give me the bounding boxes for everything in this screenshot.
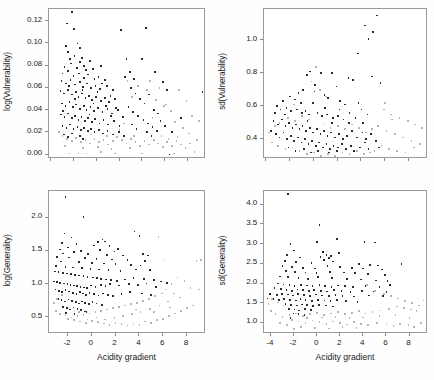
data-point xyxy=(135,141,137,143)
data-point xyxy=(318,142,320,144)
data-point xyxy=(65,45,67,47)
x-tick-label: 6 xyxy=(370,338,400,347)
data-point xyxy=(322,147,324,149)
data-point xyxy=(76,293,78,295)
data-point xyxy=(407,120,409,122)
data-point xyxy=(348,77,350,79)
data-point xyxy=(169,154,171,156)
data-point xyxy=(62,272,64,274)
x-tick-label: 6 xyxy=(147,338,177,347)
data-point xyxy=(180,310,182,312)
data-point xyxy=(83,314,85,316)
data-point xyxy=(289,284,291,286)
data-point xyxy=(173,153,175,155)
data-point xyxy=(328,152,330,154)
data-point xyxy=(198,120,200,122)
data-point xyxy=(67,70,69,72)
data-point xyxy=(296,109,298,111)
data-point xyxy=(324,300,326,302)
data-point xyxy=(310,152,312,154)
data-point xyxy=(173,293,175,295)
y-tick-label: 0.08 xyxy=(6,59,42,68)
x-tick-mark xyxy=(164,158,165,161)
data-point xyxy=(382,295,384,297)
data-point xyxy=(374,242,376,244)
data-point xyxy=(134,231,136,233)
data-point xyxy=(279,122,281,124)
data-point xyxy=(423,300,425,302)
y-tick-mark xyxy=(260,39,263,40)
data-point xyxy=(298,321,300,323)
data-point xyxy=(344,128,346,130)
data-point xyxy=(148,144,150,146)
data-point xyxy=(65,266,67,268)
data-point xyxy=(351,130,353,132)
data-point xyxy=(376,322,378,324)
data-point xyxy=(281,119,283,121)
data-point xyxy=(61,80,63,82)
data-point xyxy=(85,322,87,324)
data-point xyxy=(112,295,114,297)
data-point xyxy=(107,108,109,110)
data-point xyxy=(177,136,179,138)
data-point xyxy=(337,115,339,117)
data-point xyxy=(147,123,149,125)
data-point xyxy=(97,107,99,109)
data-point xyxy=(162,146,164,148)
data-point xyxy=(91,121,93,123)
data-point xyxy=(146,89,148,91)
data-point xyxy=(97,241,99,243)
data-point xyxy=(67,247,69,249)
data-point xyxy=(90,134,92,136)
data-point xyxy=(384,274,386,276)
data-point xyxy=(341,143,343,145)
data-point xyxy=(368,148,370,150)
data-point xyxy=(368,38,370,40)
data-point xyxy=(70,273,72,275)
data-point xyxy=(186,100,188,102)
data-point xyxy=(191,115,193,117)
data-point xyxy=(78,303,80,305)
data-point xyxy=(336,238,338,240)
data-point xyxy=(335,316,337,318)
data-point xyxy=(102,239,104,241)
data-point xyxy=(65,312,67,314)
data-point xyxy=(156,130,158,132)
x-tick-label: 4 xyxy=(347,338,377,347)
data-point xyxy=(170,110,172,112)
data-point xyxy=(363,153,365,155)
data-point xyxy=(86,83,88,85)
data-point xyxy=(97,146,99,148)
data-point xyxy=(106,85,108,87)
data-point xyxy=(90,106,92,108)
data-point xyxy=(126,58,128,60)
data-point xyxy=(82,147,84,149)
data-point xyxy=(386,130,388,132)
data-point xyxy=(271,142,273,144)
data-point xyxy=(311,262,313,264)
data-point xyxy=(329,148,331,150)
data-point xyxy=(76,243,78,245)
data-point xyxy=(53,302,55,304)
data-point xyxy=(98,269,100,271)
data-point xyxy=(282,265,284,267)
data-point xyxy=(157,143,159,145)
data-point xyxy=(339,266,341,268)
data-point xyxy=(320,256,322,258)
data-point xyxy=(286,324,288,326)
data-point xyxy=(287,294,289,296)
data-point xyxy=(353,150,355,152)
data-point xyxy=(344,104,346,106)
plot-area-top-left xyxy=(48,8,205,158)
data-point xyxy=(153,311,155,313)
data-point xyxy=(361,290,363,292)
data-point xyxy=(164,259,166,261)
data-point xyxy=(164,125,166,127)
data-point xyxy=(301,112,303,114)
data-point xyxy=(119,129,121,131)
data-point xyxy=(107,294,109,296)
data-point xyxy=(89,114,91,116)
data-point xyxy=(122,315,124,317)
data-point xyxy=(399,117,401,119)
data-point xyxy=(108,269,110,271)
